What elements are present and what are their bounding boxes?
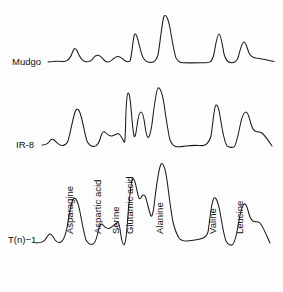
- peak-label-alanine: Alanine: [154, 202, 165, 234]
- peak-label-valine: Valine: [207, 208, 218, 234]
- trace-mudgo: [48, 16, 274, 63]
- trace-label-mudgo: Mudgo: [12, 56, 41, 67]
- trace-label-ir8: IR-8: [16, 139, 34, 150]
- peak-label-aspartic-acid: Aspartic acid: [92, 180, 103, 234]
- trace-label-tn1: T(n)−1: [8, 234, 36, 245]
- peak-label-serine: Serine: [110, 207, 121, 234]
- peak-label-asparagine: Asparagine: [64, 186, 75, 234]
- chromatogram-plot: Mudgo IR-8 T(n)−1 Asparagine Aspartic ac…: [0, 0, 283, 292]
- peak-label-leucine: Leucine: [234, 201, 245, 234]
- figure-container: Mudgo IR-8 T(n)−1 Asparagine Aspartic ac…: [0, 0, 283, 292]
- peak-label-glutamic-acid: Glutamic acid: [124, 176, 135, 234]
- trace-ir8: [42, 88, 272, 148]
